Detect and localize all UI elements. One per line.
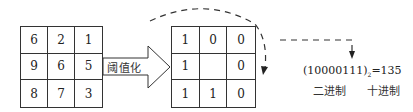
binary-value: (10000111) [303,64,368,77]
grid-cell: 0 [200,27,228,54]
grid-cell: 0 [227,80,255,107]
grid-cell: 1 [200,80,228,107]
grid-cell: 1 [172,27,200,54]
threshold-grid: 1 0 0 1 0 1 1 0 [171,26,256,108]
decimal-value: =135 [371,64,401,77]
lbp-diagram: 6 2 1 9 6 5 8 7 3 阈值化 1 0 0 1 0 1 1 0 (1… [0,0,413,112]
binary-label: 二进制 [313,82,346,98]
decimal-label: 十进制 [367,82,400,98]
grid-cell: 1 [172,54,200,81]
grid-cell: 0 [227,54,255,81]
arc-arrowhead-icon [261,66,268,75]
grid-cell: 0 [227,27,255,54]
grid-cell: 1 [172,80,200,107]
grid-cell-center [200,54,228,81]
elbow-arrowhead-icon [349,51,355,59]
binary-formula: (10000111)2=135 [303,64,402,78]
threshold-label: 阈值化 [107,59,142,75]
dashed-elbow [280,40,352,52]
